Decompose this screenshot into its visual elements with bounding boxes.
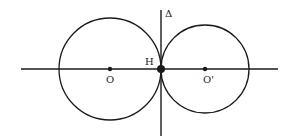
label-h: H (145, 56, 154, 67)
point-o-prime (203, 67, 207, 71)
label-delta: Δ (165, 8, 172, 19)
point-o (108, 67, 112, 71)
tangent-circles-diagram: Δ H O O' (0, 0, 291, 136)
point-h (157, 65, 165, 73)
label-o-prime: O' (203, 74, 214, 85)
label-o: O (106, 74, 114, 85)
